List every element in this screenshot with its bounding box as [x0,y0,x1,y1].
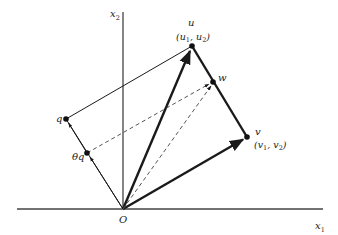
vector-v [123,140,243,210]
line-u-v [192,46,247,137]
x1-axis-label: x1 [315,220,325,234]
u-label: u [188,17,194,28]
w-label: w [218,72,227,83]
point-thetaq [84,150,90,156]
origin-label: O [119,214,127,225]
vector-diagram: x2 x1 O u (u1, u2) w v (v1, v2) q θq [0,0,338,235]
point-q [63,116,69,122]
x2-axis-label: x2 [110,8,120,22]
v-coords-label: (v1, v2) [254,139,287,152]
q-label: q [56,113,62,124]
u-coords-label: (u1, u2) [176,31,210,44]
arrow-o-thetaq [90,157,123,209]
vector-u [123,51,190,209]
arrow-thetaq-q [69,123,88,153]
point-u [189,43,195,49]
line-q-u [66,46,192,119]
dashed-thetaq-w [87,84,209,153]
v-label: v [255,126,261,137]
point-w [210,79,216,85]
thetaq-label: θq [72,151,84,162]
point-v [244,134,250,140]
